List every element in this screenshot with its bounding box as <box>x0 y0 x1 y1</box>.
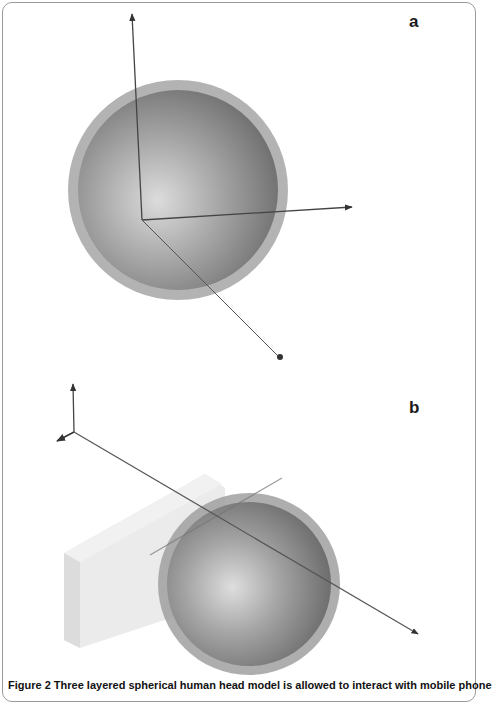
triad-vertical-axis <box>73 384 74 432</box>
panel-b <box>57 384 418 675</box>
panel-a <box>68 14 352 360</box>
phone-block-side <box>64 553 80 648</box>
panel-label-b: b <box>409 398 419 418</box>
triad-side-axis <box>57 432 74 441</box>
sphere-inner-layer-b <box>167 502 331 666</box>
panel-label-a: a <box>409 12 418 32</box>
sphere-inner-layer <box>78 90 278 290</box>
source-point <box>277 354 283 360</box>
figure-caption: Figure 2 Three layered spherical human h… <box>8 679 478 691</box>
